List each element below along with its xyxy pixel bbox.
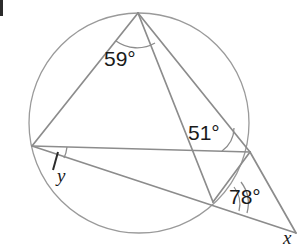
segment-left-to-right	[32, 146, 250, 152]
geometry-canvas	[0, 0, 305, 251]
angle-label-51: 51°	[188, 122, 220, 143]
segment-apex-to-bottom	[138, 13, 213, 202]
angle-label-78: 78°	[229, 186, 261, 207]
angle-arc-51	[222, 128, 234, 151]
geometry-figure: 59° 51° 78° y x	[0, 0, 305, 251]
segment-apex-to-left	[32, 13, 138, 146]
angle-label-y: y	[57, 166, 65, 185]
angle-label-x: x	[283, 228, 291, 247]
angle-label-59: 59°	[104, 48, 136, 69]
